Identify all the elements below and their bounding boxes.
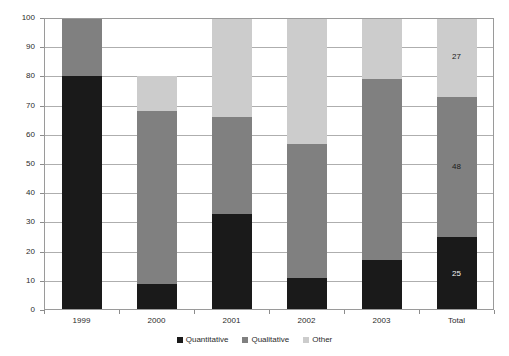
bar-segment[interactable] <box>62 18 102 76</box>
x-tick-mark <box>44 310 45 314</box>
x-tick-mark <box>494 310 495 314</box>
bar-group[interactable] <box>212 18 252 310</box>
bar-value-label: 27 <box>452 53 461 61</box>
bar-segment[interactable] <box>137 111 177 283</box>
bar-segment[interactable] <box>362 18 402 79</box>
plot-area: 254827 <box>44 18 494 310</box>
bar-segment[interactable] <box>137 76 177 111</box>
y-tick-label: 100 <box>22 14 35 22</box>
y-tick-label: 10 <box>26 277 35 285</box>
y-tick-label: 70 <box>26 102 35 110</box>
bar-segment[interactable] <box>287 144 327 278</box>
y-tick-label: 60 <box>26 131 35 139</box>
stacked-bar-chart: 0102030405060708090100 254827 1999200020… <box>0 0 509 356</box>
bar-segment[interactable] <box>212 214 252 310</box>
bar-segment[interactable] <box>362 79 402 260</box>
x-tick-mark <box>419 310 420 314</box>
bar-group[interactable] <box>62 18 102 310</box>
y-tick-label: 80 <box>26 72 35 80</box>
bar-group[interactable] <box>287 18 327 310</box>
bar-segment[interactable] <box>287 278 327 310</box>
bar-segment[interactable] <box>212 18 252 117</box>
y-tick-label: 0 <box>31 306 35 314</box>
x-tick-label: 2001 <box>223 317 241 325</box>
y-axis: 0102030405060708090100 <box>0 18 44 310</box>
y-tick-label: 40 <box>26 189 35 197</box>
legend-swatch-icon <box>242 337 248 343</box>
y-tick-label: 20 <box>26 248 35 256</box>
bar-segment[interactable] <box>212 117 252 213</box>
x-tick-mark <box>119 310 120 314</box>
bar-group[interactable]: 254827 <box>437 18 477 310</box>
x-tick-label: Total <box>448 317 465 325</box>
x-tick-label: 2002 <box>298 317 316 325</box>
bar-segment[interactable] <box>287 18 327 144</box>
legend-swatch-icon <box>177 337 183 343</box>
bar-value-label: 48 <box>452 163 461 171</box>
bar-group[interactable] <box>137 18 177 310</box>
legend-swatch-icon <box>303 337 309 343</box>
bar-group[interactable] <box>362 18 402 310</box>
legend-item[interactable]: Qualitative <box>242 336 289 344</box>
legend-label: Qualitative <box>251 336 289 344</box>
bar-value-label: 25 <box>452 270 461 278</box>
x-tick-mark <box>269 310 270 314</box>
x-tick-mark <box>344 310 345 314</box>
bar-segment[interactable]: 48 <box>437 97 477 237</box>
x-axis: 19992000200120022003Total <box>44 310 494 330</box>
bar-segment[interactable] <box>137 284 177 310</box>
legend-item[interactable]: Other <box>303 336 332 344</box>
y-tick-label: 90 <box>26 43 35 51</box>
x-tick-mark <box>194 310 195 314</box>
bar-segment[interactable] <box>62 76 102 310</box>
legend-label: Quantitative <box>186 336 229 344</box>
x-tick-label: 2000 <box>148 317 166 325</box>
bar-segment[interactable] <box>362 260 402 310</box>
x-tick-label: 1999 <box>73 317 91 325</box>
y-tick-label: 30 <box>26 218 35 226</box>
x-tick-label: 2003 <box>373 317 391 325</box>
legend-label: Other <box>312 336 332 344</box>
bars-layer: 254827 <box>44 18 494 310</box>
chart-legend: QuantitativeQualitativeOther <box>0 336 509 344</box>
bar-segment[interactable]: 27 <box>437 18 477 97</box>
bar-segment[interactable]: 25 <box>437 237 477 310</box>
legend-item[interactable]: Quantitative <box>177 336 229 344</box>
y-tick-label: 50 <box>26 160 35 168</box>
